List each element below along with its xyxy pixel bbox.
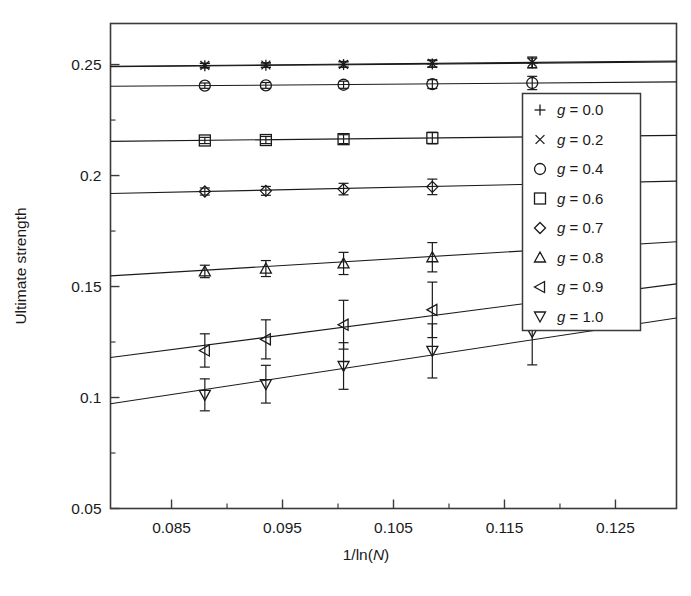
x-tick-label: 0.115 bbox=[486, 519, 524, 536]
legend-value: = 0.9 bbox=[565, 278, 603, 295]
x-axis-title-suffix: ) bbox=[384, 546, 389, 563]
legend-label: g = 0.0 bbox=[557, 101, 603, 118]
y-axis-title: Ultimate strength bbox=[12, 207, 29, 324]
x-tick-label: 0.085 bbox=[152, 519, 191, 536]
x-tick-label: 0.105 bbox=[374, 519, 413, 536]
y-tick-label: 0.1 bbox=[80, 389, 102, 406]
figure-container: 0.0850.0950.1050.1150.125 0.050.10.150.2… bbox=[0, 0, 691, 596]
x-axis-title: 1/ln(N) bbox=[343, 546, 390, 563]
legend: g = 0.0g = 0.2g = 0.4g = 0.6g = 0.7g = 0… bbox=[523, 94, 641, 331]
legend-label: g = 0.8 bbox=[557, 249, 603, 266]
legend-value: = 0.0 bbox=[565, 101, 603, 118]
legend-label: g = 0.6 bbox=[557, 190, 603, 207]
legend-label: g = 0.9 bbox=[557, 278, 603, 295]
x-tick-label: 0.125 bbox=[596, 519, 635, 536]
x-axis-title-prefix: 1/ln( bbox=[343, 546, 374, 563]
y-tick-label: 0.05 bbox=[71, 500, 101, 517]
x-tick-label: 0.095 bbox=[263, 519, 302, 536]
legend-value: = 0.8 bbox=[565, 249, 603, 266]
legend-value: = 0.7 bbox=[565, 219, 603, 236]
legend-label: g = 0.4 bbox=[557, 160, 603, 177]
legend-value: = 0.6 bbox=[565, 190, 603, 207]
ultimate-strength-vs-inverse-log-n-chart: 0.0850.0950.1050.1150.125 0.050.10.150.2… bbox=[0, 0, 691, 596]
y-tick-label: 0.2 bbox=[80, 167, 102, 184]
legend-label: g = 0.2 bbox=[557, 131, 603, 148]
x-axis-title-variable: N bbox=[373, 546, 385, 563]
legend-value: = 1.0 bbox=[565, 308, 603, 325]
legend-label: g = 1.0 bbox=[557, 308, 603, 325]
legend-label: g = 0.7 bbox=[557, 219, 603, 236]
legend-value: = 0.2 bbox=[565, 131, 603, 148]
legend-value: = 0.4 bbox=[565, 160, 603, 177]
y-tick-label: 0.15 bbox=[71, 278, 101, 295]
y-tick-label: 0.25 bbox=[71, 56, 101, 73]
